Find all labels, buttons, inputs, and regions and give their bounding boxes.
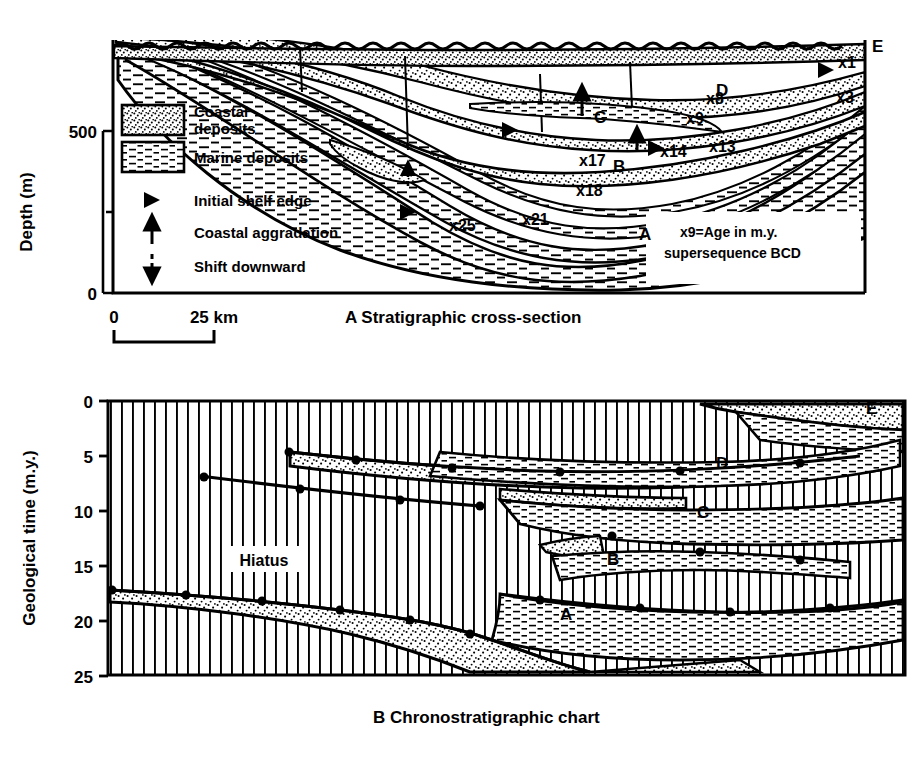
age-marker-x3: x3 bbox=[836, 89, 854, 106]
panel-b-seq-E: E bbox=[866, 399, 877, 418]
age-marker-x21: x21 bbox=[522, 211, 549, 228]
panel-b-seq-A: A bbox=[560, 605, 572, 624]
age-marker-x25: x25 bbox=[449, 217, 476, 234]
panel-b-caption: B Chronostratigraphic chart bbox=[373, 708, 600, 727]
panel-a-seq-A: A bbox=[639, 225, 651, 244]
note-age-definition: x9=Age in m.y. bbox=[680, 224, 777, 240]
age-marker-x9: x9 bbox=[686, 110, 704, 127]
figure-svg: 500 0 Depth (m) Coastal deposits Marine … bbox=[0, 0, 923, 758]
figure-root: 500 0 Depth (m) Coastal deposits Marine … bbox=[0, 0, 923, 758]
age-marker-x13: x13 bbox=[709, 138, 736, 155]
panel-b-seq-B: B bbox=[607, 550, 619, 569]
age-marker-x1: x1 bbox=[838, 54, 856, 71]
legend-label-coastal-1: Coastal bbox=[194, 103, 248, 120]
panel-a-seq-C: C bbox=[594, 108, 606, 127]
panel-b-body bbox=[108, 401, 906, 675]
panel-b-seq-C: C bbox=[697, 503, 709, 522]
legend-label-marine: Marine deposits bbox=[194, 149, 308, 166]
panel-a-seq-E: E bbox=[872, 37, 883, 56]
panel-b-axis-label: Geological time (m.y.) bbox=[20, 450, 39, 625]
legend-label-aggradation: Coastal aggradation bbox=[194, 224, 338, 241]
panel-a-seq-D: D bbox=[716, 81, 728, 100]
panel-a-ytick-0: 0 bbox=[88, 285, 97, 304]
coastal-deposits-swatch bbox=[122, 105, 184, 135]
panel-a-ytick-500: 500 bbox=[69, 123, 97, 142]
hiatus-label: Hiatus bbox=[240, 552, 289, 569]
panel-b-ytick-5: 5 bbox=[84, 448, 93, 467]
age-marker-x17: x17 bbox=[579, 152, 606, 169]
panel-b-ytick-10: 10 bbox=[74, 503, 93, 522]
panel-b-ytick-0: 0 bbox=[84, 393, 93, 412]
marine-deposits-swatch bbox=[122, 142, 184, 172]
panel-a-caption: A Stratigraphic cross-section bbox=[345, 308, 582, 327]
panel-b-ytick-20: 20 bbox=[74, 613, 93, 632]
scale-bar-right-label: 25 km bbox=[190, 308, 238, 327]
legend-label-coastal-2: deposits bbox=[194, 120, 256, 137]
note-supersequence: supersequence BCD bbox=[664, 245, 801, 261]
age-marker-x14: x14 bbox=[660, 143, 687, 160]
legend-label-shift-downward: Shift downward bbox=[194, 258, 306, 275]
panel-b-seq-D: D bbox=[716, 454, 728, 473]
panel-b-ytick-15: 15 bbox=[74, 558, 93, 577]
panel-a-axis-label: Depth (m) bbox=[17, 172, 36, 251]
age-marker-x18: x18 bbox=[576, 182, 603, 199]
scale-bar-left-label: 0 bbox=[109, 308, 118, 327]
panel-b-ytick-25: 25 bbox=[74, 668, 93, 687]
legend-label-shelf-edge: Initial shelf edge bbox=[194, 192, 312, 209]
panel-a-seq-B: B bbox=[613, 157, 625, 176]
